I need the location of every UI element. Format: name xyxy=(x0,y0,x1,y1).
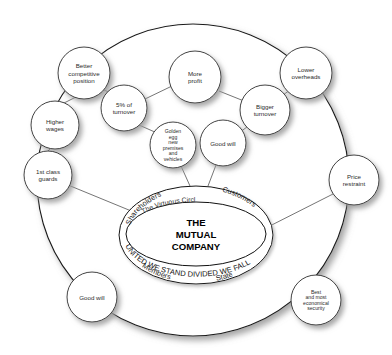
core-title-line-2: MUTUAL xyxy=(176,229,217,240)
bubble-golden-egg-new-premises-and-vehicles[interactable]: Goldeneggnewpremisesandvehicles xyxy=(150,122,196,168)
bubble-more-profit[interactable]: Moreprofit xyxy=(169,51,221,103)
bubble-label-better-competitive-position-line-3: position xyxy=(73,77,95,84)
bubble-best-and-most-economical-security[interactable]: Bestand mosteconomicalsecurity xyxy=(291,275,341,325)
bubble-label-best-and-most-economical-security-line-4: security xyxy=(307,305,325,311)
bubble-label-good-will-lower-line-1: Good will xyxy=(79,294,104,301)
bubble-better-competitive-position[interactable]: Bettercompetitiveposition xyxy=(58,47,110,99)
bubble-bigger-turnover[interactable]: Biggerturnover xyxy=(240,85,290,135)
bubble-label-first-class-guards-line-1: 1st class xyxy=(36,168,60,175)
bubble-higher-wages[interactable]: Higherwages xyxy=(31,101,79,149)
core-title-line-1: THE xyxy=(186,217,206,228)
bubble-lower-overheads[interactable]: Loweroverheads xyxy=(280,47,332,99)
bubble-five-percent-of-turnover[interactable]: 5% ofturnover xyxy=(101,85,147,131)
bubble-label-first-class-guards-line-2: guards xyxy=(39,175,58,182)
bubble-good-will-upper[interactable]: Good will xyxy=(200,120,246,166)
bubble-price-restraint[interactable]: Pricerestraint xyxy=(329,155,379,205)
bubble-label-golden-egg-new-premises-and-vehicles-line-6: vehicles xyxy=(164,156,183,162)
bubble-label-bigger-turnover-line-1: Bigger xyxy=(256,103,274,110)
bubble-label-higher-wages-line-1: Higher xyxy=(46,118,64,125)
core-title-line-3: COMPANY xyxy=(172,241,221,252)
bubble-label-good-will-upper-line-1: Good will xyxy=(210,140,235,147)
bubble-label-price-restraint-line-1: Price xyxy=(347,173,362,180)
bubble-label-bigger-turnover-line-2: turnover xyxy=(254,110,277,117)
bubble-label-lower-overheads-line-1: Lower xyxy=(298,66,315,73)
bubble-label-more-profit-line-1: More xyxy=(188,70,203,77)
bubble-label-higher-wages-line-2: wages xyxy=(45,125,64,132)
bubble-label-lower-overheads-line-2: overheads xyxy=(292,73,321,80)
diagram-canvas: Shareholders Customers Members State The… xyxy=(0,0,392,355)
bubble-label-five-percent-of-turnover-line-1: 5% of xyxy=(116,101,132,108)
bubble-label-five-percent-of-turnover-line-2: turnover xyxy=(113,108,136,115)
bubble-label-better-competitive-position-line-1: Better xyxy=(76,62,93,69)
bubble-label-price-restraint-line-2: restraint xyxy=(343,180,366,187)
bubble-good-will-lower[interactable]: Good will xyxy=(67,272,117,322)
bubble-first-class-guards[interactable]: 1st classguards xyxy=(24,151,72,199)
bubble-label-more-profit-line-2: profit xyxy=(188,77,202,84)
bubble-label-better-competitive-position-line-2: competitive xyxy=(68,70,100,77)
virtuous-circle-diagram: Shareholders Customers Members State The… xyxy=(0,0,392,355)
